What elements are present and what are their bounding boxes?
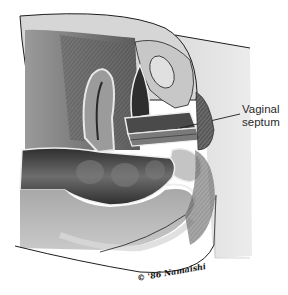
label-line-1: Vaginal — [242, 103, 280, 116]
label-line-2: septum — [242, 116, 280, 129]
label-vaginal-septum: Vaginal septum — [242, 103, 280, 129]
pelvis-sagittal-section-drawing — [0, 0, 288, 295]
anatomical-illustration: Vaginal septum © '86 Namaishi — [0, 0, 288, 295]
